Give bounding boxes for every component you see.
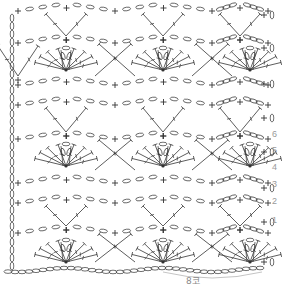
row-number: 6 (272, 129, 277, 139)
repeat-label: 8코 (186, 274, 200, 287)
crochet-chart (0, 0, 284, 289)
row-number: 5 (272, 145, 277, 155)
row-number: 1 (272, 215, 277, 225)
row-number: 2 (272, 196, 277, 206)
row-number: 3 (272, 179, 277, 189)
row-number: 4 (272, 162, 277, 172)
